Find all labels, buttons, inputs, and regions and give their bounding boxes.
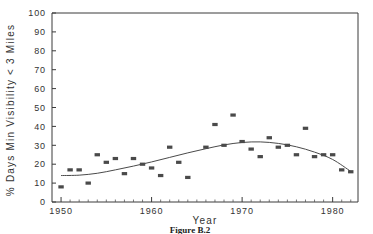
data-point [149, 166, 154, 169]
data-point [67, 168, 72, 171]
data-point [58, 185, 63, 188]
data-point [285, 144, 290, 147]
y-tick-label: 100 [28, 8, 46, 18]
data-point [122, 172, 127, 175]
data-point [86, 182, 91, 185]
data-point [203, 146, 208, 149]
y-axis-ticks [52, 13, 56, 202]
y-tick-label: 70 [34, 65, 46, 75]
y-tick-label: 50 [34, 103, 46, 113]
data-point [339, 168, 344, 171]
data-point [239, 140, 244, 143]
data-point [330, 153, 335, 156]
y-tick-label: 90 [34, 27, 46, 37]
data-point [76, 168, 81, 171]
data-point [230, 113, 235, 116]
figure-container: 0102030405060708090100 1950196019701980 … [0, 0, 373, 234]
data-point [167, 146, 172, 149]
y-tick-label: 80 [34, 46, 46, 56]
x-tick-label: 1980 [321, 206, 345, 216]
y-tick-label: 10 [34, 178, 46, 188]
data-point [212, 123, 217, 126]
data-point [104, 161, 109, 164]
data-point [321, 153, 326, 156]
x-axis-ticks [61, 197, 351, 202]
data-point [221, 144, 226, 147]
data-point [248, 147, 253, 150]
data-point [95, 153, 100, 156]
y-tick-label: 40 [34, 122, 46, 132]
data-point [113, 157, 118, 160]
y-tick-label: 60 [34, 84, 46, 94]
data-point [158, 174, 163, 177]
data-point [312, 155, 317, 158]
x-tick-label: 1950 [49, 206, 73, 216]
y-tick-label: 0 [40, 197, 46, 207]
y-axis-title: % Days Min Visibility < 3 Miles [5, 24, 16, 196]
data-point [294, 153, 299, 156]
data-points [58, 113, 353, 188]
y-tick-label: 30 [34, 141, 46, 151]
x-tick-label: 1970 [230, 206, 254, 216]
y-axis-tick-labels: 0102030405060708090100 [28, 8, 46, 207]
figure-caption: Figure B.2 [170, 225, 211, 234]
data-point [131, 157, 136, 160]
data-point [176, 161, 181, 164]
data-point [185, 176, 190, 179]
data-point [348, 170, 353, 173]
data-point [258, 155, 263, 158]
data-point [303, 127, 308, 130]
data-point [140, 163, 145, 166]
x-tick-label: 1960 [140, 206, 164, 216]
y-tick-label: 20 [34, 159, 46, 169]
data-point [276, 146, 281, 149]
visibility-scatter-chart: 0102030405060708090100 1950196019701980 … [0, 0, 373, 234]
data-point [267, 136, 272, 139]
